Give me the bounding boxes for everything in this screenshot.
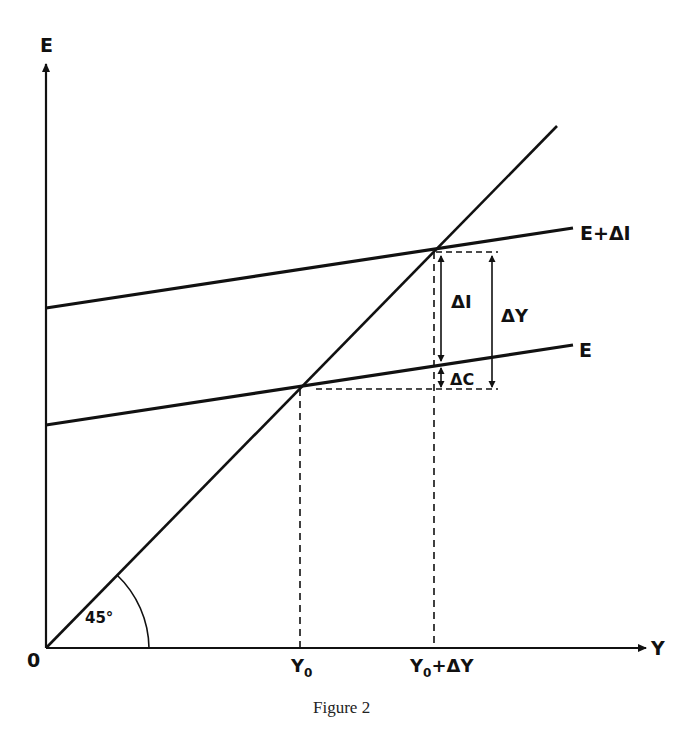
figure-caption: Figure 2: [313, 698, 370, 717]
delta-c-label: ΔC: [450, 370, 474, 389]
lower-line-label: E: [579, 339, 592, 361]
y-axis-label: E: [40, 34, 53, 56]
angle-label: 45°: [85, 609, 113, 627]
origin-label: 0: [27, 649, 40, 671]
multiplier-diagram: E Y 0 45° E+ΔI E ΔI ΔY ΔC Y0 Y0+ΔY Figur…: [0, 0, 685, 737]
y0-label: Y0: [290, 655, 312, 680]
delta-i-label: ΔI: [451, 291, 472, 312]
upper-expenditure-line: [46, 228, 573, 308]
angle-arc: [117, 575, 149, 648]
upper-line-label: E+ΔI: [580, 222, 631, 244]
lower-expenditure-line: [46, 345, 573, 425]
x-axis-label: Y: [650, 637, 665, 659]
delta-y-label: ΔY: [501, 305, 529, 326]
y0-plus-dy-label: Y0+ΔY: [409, 655, 474, 680]
